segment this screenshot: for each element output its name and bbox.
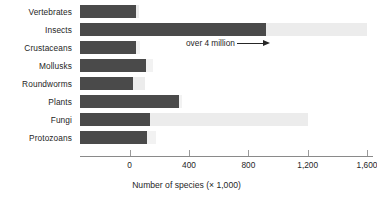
annotation-text: over 4 million [186,38,235,48]
bar-row-mollusks [80,59,367,72]
category-label-mollusks: Mollusks [0,62,72,71]
category-label-crustaceans: Crustaceans [0,44,72,53]
category-label-roundworms: Roundworms [0,80,72,89]
x-axis-title-text: Number of species (× 1,000) [132,180,241,191]
category-label-fungi: Fungi [0,116,72,125]
x-axis-title: Number of species (× 1,000) [0,180,367,191]
x-axis-tick-label-1200: 1,200 [297,160,318,170]
bar-mollusks [80,59,146,72]
x-axis-tick-label-0: 0 [127,160,132,170]
category-label-plants: Plants [0,98,72,107]
x-axis-tick-label-800: 800 [241,160,255,170]
bar-plants [80,95,179,108]
x-axis-line [80,156,373,157]
bar-row-plants [80,95,367,108]
right-arrow-icon [237,40,271,47]
x-axis-tick-1600 [367,150,368,156]
bar-roundworms [80,77,133,90]
x-axis-tick-label-1600: 1,600 [357,160,377,170]
x-axis-tick-0 [130,150,131,156]
plot-area [80,5,367,153]
x-axis-tick-label-400: 400 [182,160,196,170]
bar-row-protozoans [80,131,367,144]
bar-fungi [80,113,150,126]
x-axis-tick-400 [189,150,190,156]
bar-row-fungi [80,113,367,126]
annotation-over-4-million: over 4 million [186,38,271,48]
bar-row-insects [80,23,367,36]
bar-protozoans [80,131,147,144]
category-label-vertebrates: Vertebrates [0,8,72,17]
x-axis-tick-800 [248,150,249,156]
category-axis-labels: Vertebrates Insects Crustaceans Mollusks… [0,5,72,153]
bar-crustaceans [80,41,136,54]
bar-row-vertebrates [80,5,367,18]
bar-row-roundworms [80,77,367,90]
bar-insects [80,23,266,36]
category-label-insects: Insects [0,26,72,35]
x-axis-tick-1200 [308,150,309,156]
bar-vertebrates [80,5,136,18]
category-label-protozoans: Protozoans [0,134,72,143]
